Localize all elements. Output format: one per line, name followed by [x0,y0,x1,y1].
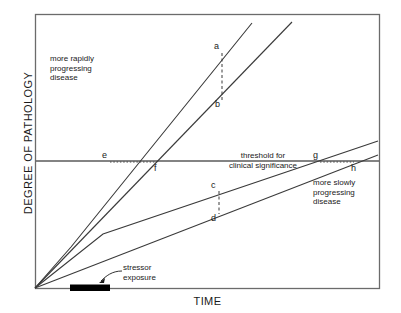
point-label-d: d [211,213,216,223]
curve-slow-2 [35,155,378,288]
annotation-rapid-line3: disease [50,73,94,83]
threshold-caption: threshold for clinical significance [208,151,318,171]
annotation-stressor-line1: stressor [123,263,156,273]
annotation-slow-line1: more slowly [313,178,355,188]
point-label-e: e [102,150,107,160]
threshold-caption-line1: threshold for [208,151,318,161]
annotation-slow-line3: disease [313,197,355,207]
annotation-rapid-line1: more rapidly [50,54,94,64]
annotation-rapid-disease: more rapidly progressing disease [50,54,94,83]
point-label-c: c [211,180,216,190]
threshold-caption-line2: clinical significance [208,161,318,171]
figure-svg [0,0,401,313]
point-label-g: g [313,150,318,160]
point-label-b: b [215,99,220,109]
x-axis-title: TIME [35,295,380,307]
curve-slow-1 [35,141,378,288]
annotation-slow-line2: progressing [313,188,355,198]
point-label-a: a [214,41,219,51]
stressor-arrow-head [99,278,105,283]
y-axis-title: DEGREE OF PATHOLOGY [22,33,34,253]
annotation-stressor-line2: exposure [123,273,156,283]
pathology-progression-figure: DEGREE OF PATHOLOGY TIME more rapidly pr… [0,0,401,313]
annotation-stressor-exposure: stressor exposure [123,263,156,282]
annotation-rapid-line2: progressing [50,64,94,74]
stressor-exposure-bar [70,285,110,292]
point-label-h: h [351,163,356,173]
annotation-slow-disease: more slowly progressing disease [313,178,355,207]
point-label-f: f [154,163,157,173]
